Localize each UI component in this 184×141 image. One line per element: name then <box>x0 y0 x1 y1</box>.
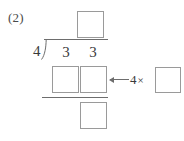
remainder-answer-box[interactable] <box>80 102 107 129</box>
annotation-left-arrow-icon <box>110 79 129 80</box>
annotation-multiplier: 4 <box>130 72 137 87</box>
multiplication-sign-icon: × <box>137 74 144 86</box>
subtraction-rule <box>42 97 108 98</box>
long-division-worksheet: (2) 4 3 3 4× <box>0 0 184 141</box>
division-bracket-icon <box>41 39 47 60</box>
quotient-answer-box[interactable] <box>77 11 104 38</box>
division-vinculum <box>44 39 108 40</box>
product-answer-box-tens[interactable] <box>52 66 79 93</box>
annotation-factor-box[interactable] <box>155 67 181 93</box>
dividend-digit-tens: 3 <box>58 44 74 61</box>
problem-number-label: (2) <box>8 11 24 25</box>
product-answer-box-ones[interactable] <box>80 66 107 93</box>
divisor-value: 4 <box>33 43 41 59</box>
annotation-expression: 4× <box>130 72 144 88</box>
dividend-digit-ones: 3 <box>85 44 101 61</box>
